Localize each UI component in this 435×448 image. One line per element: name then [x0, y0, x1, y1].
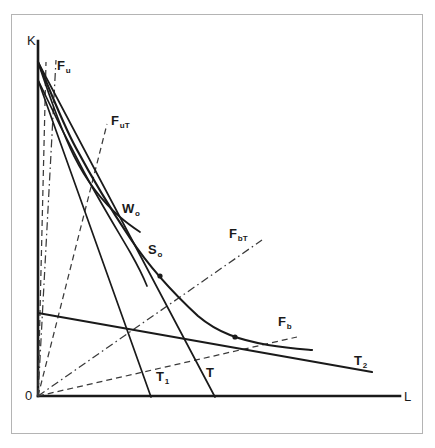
t-label-base: T: [206, 365, 214, 380]
fb-ray: [38, 337, 297, 396]
fbt-label: FbT: [229, 227, 247, 240]
main-isoquant-curve: [38, 62, 312, 350]
fut-label: FuT: [111, 114, 129, 127]
fbt-tangency-point: [157, 273, 162, 278]
w-nought-label-base: W: [122, 201, 134, 216]
fut-label-base: F: [111, 113, 119, 128]
s-nought-label-sub: o: [157, 250, 162, 259]
fb-label-base: F: [278, 314, 286, 329]
w-nought-label: Wo: [122, 202, 140, 215]
origin-label: 0: [25, 389, 32, 402]
fu-label: Fu: [57, 59, 70, 72]
t-label: T: [206, 366, 214, 379]
fb-label-sub: b: [287, 322, 292, 331]
fbt-label-sub: bT: [238, 234, 248, 243]
t2-label-sub: 2: [363, 361, 368, 370]
l-axis-label: L: [404, 390, 411, 403]
t1-label-sub: 1: [165, 377, 170, 386]
k-axis-label: K: [27, 34, 36, 47]
fut-label-sub: uT: [120, 121, 130, 130]
t2-label: T2: [354, 354, 367, 367]
fbt-label-base: F: [229, 226, 237, 241]
fu-label-sub: u: [66, 66, 71, 75]
t-isocost-line: [38, 62, 215, 397]
t2-tangency-point: [232, 334, 237, 339]
t1-label: T1: [156, 370, 169, 383]
t1-isocost-line: [38, 80, 151, 397]
t2-label-base: T: [354, 353, 362, 368]
s-nought-label-base: S: [148, 242, 157, 257]
fu-label-base: F: [57, 58, 65, 73]
w-nought-label-sub: o: [135, 209, 140, 218]
s-nought-label: So: [148, 243, 162, 256]
fb-label: Fb: [278, 315, 291, 328]
figure-root: K L 0 Fu FuT Wo So FbT Fb T1 T T2: [0, 0, 435, 448]
t1-label-base: T: [156, 369, 164, 384]
